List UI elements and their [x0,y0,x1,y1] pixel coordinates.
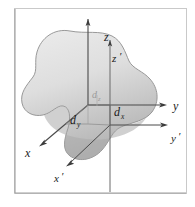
dimension-dx-subscript: x [120,112,125,121]
axis-label-z-prime: z [111,52,117,64]
axis-label-z: z [103,30,109,44]
axis-label-y-prime: y [170,132,176,144]
axis-label-x-prime-group: x ′ [53,170,64,184]
axis-label-x: x [24,146,31,160]
dimension-dy-base: d [70,113,77,127]
dimension-dy-subscript: y [76,120,81,129]
axis-label-y: y [172,99,179,113]
dimension-dx-base: d [114,105,121,119]
figure-container: z y x z ′ y ′ x ′ d z d y d x [0,0,195,207]
axis-label-y-prime-mark: ′ [178,130,181,142]
dimension-dz-subscript: z [97,95,101,102]
coordinate-axes-diagram: z y x z ′ y ′ x ′ d z d y d x [0,0,195,207]
axis-label-x-prime: x [53,172,59,184]
axis-label-y-prime-group: y ′ [170,130,181,144]
axis-label-x-prime-mark: ′ [61,170,64,182]
